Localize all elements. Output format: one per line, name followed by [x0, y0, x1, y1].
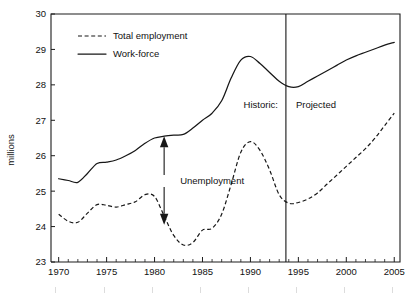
y-tick-label: 23 — [35, 256, 46, 267]
y-tick-label: 28 — [35, 79, 46, 90]
x-tick-label: 2000 — [336, 266, 357, 277]
y-tick-label: 25 — [35, 186, 46, 197]
x-tick-label: 1985 — [192, 266, 213, 277]
x-tick-label: 1980 — [144, 266, 165, 277]
y-tick-label: 30 — [35, 8, 46, 19]
y-tick-label: 26 — [35, 150, 46, 161]
projected-label: Projected — [296, 99, 336, 110]
x-tick-label: 1995 — [288, 266, 309, 277]
chart-figure: 2324252627282930 19701975198019851990199… — [0, 0, 420, 295]
chart-background — [0, 0, 420, 295]
y-tick-label: 27 — [35, 115, 46, 126]
historic-label: Historic: — [244, 99, 278, 110]
y-axis-title: millions — [5, 134, 16, 166]
y-tick-label: 24 — [35, 221, 46, 232]
x-tick-label: 2005 — [384, 266, 405, 277]
x-tick-label: 1975 — [96, 266, 117, 277]
y-tick-label: 29 — [35, 44, 46, 55]
legend-label: Total employment — [113, 30, 188, 41]
line-chart-svg: 2324252627282930 19701975198019851990199… — [0, 0, 420, 295]
x-tick-label: 1970 — [48, 266, 69, 277]
x-tick-label: 1990 — [240, 266, 261, 277]
legend-label: Work-force — [113, 48, 159, 59]
unemployment-label: Unemployment — [180, 175, 244, 186]
